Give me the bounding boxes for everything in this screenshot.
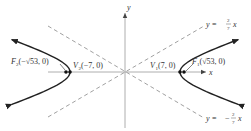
svg-text:2: 2 [227, 18, 230, 23]
svg-text:7: 7 [232, 120, 235, 125]
svg-text:7: 7 [227, 26, 230, 31]
svg-text:(−√53, 0): (−√53, 0) [19, 57, 50, 66]
asymptote-upper-label: y = 2 7 x [205, 18, 237, 31]
svg-text:x: x [237, 114, 242, 123]
hyperbola-diagram: y x y = 2 7 x y = − 2 7 x V 1 (7, 0) F 1… [0, 0, 251, 131]
svg-text:y =: y = [205, 20, 217, 29]
vertex-v1-label: V 1 (7, 0) [150, 61, 176, 71]
focus-f2-dot [64, 70, 68, 74]
svg-text:2: 2 [232, 112, 235, 117]
asymptote-lower-label: y = − 2 7 x [205, 112, 242, 125]
focus-f1-dot [182, 70, 186, 74]
svg-text:x: x [232, 20, 237, 29]
y-axis-label: y [126, 3, 131, 12]
svg-text:(7, 0): (7, 0) [158, 61, 176, 70]
svg-text:(−7, 0): (−7, 0) [81, 61, 103, 70]
svg-text:(√53, 0): (√53, 0) [200, 57, 226, 66]
focus-f2-label: F 2 (−√53, 0) [10, 57, 49, 67]
vertex-v1-dot [178, 70, 182, 74]
vertex-v2-label: V 2 (−7, 0) [73, 61, 103, 71]
f2-leader [60, 64, 65, 70]
focus-f1-label: F 1 (√53, 0) [191, 57, 226, 67]
x-axis-label: x [208, 68, 213, 77]
svg-text:y =: y = [205, 114, 217, 123]
svg-text:−: − [225, 114, 230, 123]
vertex-v2-dot [68, 70, 72, 74]
